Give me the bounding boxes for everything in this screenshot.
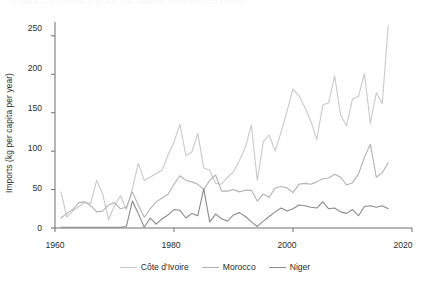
plot-area: [0, 0, 430, 288]
legend: Côte d'IvoireMoroccoNiger: [0, 262, 430, 272]
legend-item-label: Niger: [290, 262, 311, 272]
legend-item-c-te-d-ivoire[interactable]: Côte d'Ivoire: [120, 262, 189, 272]
series-line-niger: [61, 189, 388, 227]
legend-line-swatch: [202, 267, 219, 268]
y-tick-marks: [51, 36, 55, 228]
legend-item-label: Côte d'Ivoire: [141, 262, 189, 272]
chart-figure: Figure 3.2 Cereal imports per capita, se…: [0, 0, 430, 288]
x-tick-marks: [55, 228, 412, 232]
data-series-group: [61, 26, 388, 227]
legend-item-niger[interactable]: Niger: [269, 262, 311, 272]
series-line-c-te-d-ivoire: [61, 26, 388, 220]
legend-line-swatch: [269, 267, 286, 268]
legend-item-morocco[interactable]: Morocco: [202, 262, 256, 272]
axis-lines: [55, 22, 412, 228]
legend-item-label: Morocco: [223, 262, 256, 272]
legend-line-swatch: [120, 267, 137, 268]
